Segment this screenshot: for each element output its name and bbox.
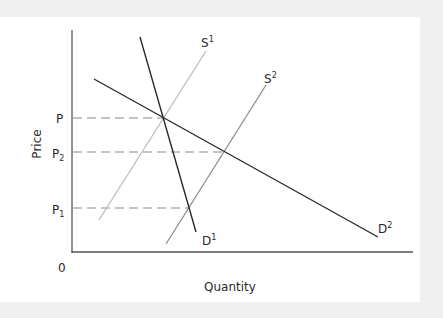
price-label-p: P [56, 112, 63, 126]
supply-curve-s1 [99, 51, 206, 220]
y-axis-label: Price [30, 129, 44, 158]
price-label-p1: P1 [52, 203, 64, 219]
demand-curve-d1 [140, 37, 196, 232]
x-axis-label: Quantity [204, 280, 256, 294]
supply-demand-diagram: P P2 P1 S1 S2 D1 D2 0 Quantity Price [0, 0, 443, 318]
demand-curve-d2 [94, 79, 378, 237]
curve-label-s1: S1 [201, 35, 214, 50]
price-label-p2: P2 [52, 147, 64, 163]
origin-label: 0 [58, 261, 66, 275]
curve-label-s2: S2 [264, 71, 277, 86]
supply-curve-s2 [166, 85, 266, 244]
curve-label-d1: D1 [202, 233, 216, 248]
curve-label-d2: D2 [378, 221, 392, 236]
